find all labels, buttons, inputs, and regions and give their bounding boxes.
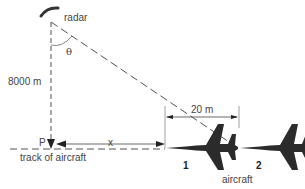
angle-theta-label: θ <box>66 47 72 57</box>
radar-label: radar <box>64 13 87 23</box>
aircraft-2-label: 2 <box>256 161 262 171</box>
aircraft-1-label: 1 <box>183 161 189 171</box>
height-label: 8000 m <box>8 77 41 87</box>
arrow-down-icon <box>47 139 55 149</box>
angle-arc <box>51 36 72 46</box>
point-p-label: P <box>39 138 46 148</box>
aircraft-2-icon <box>240 124 305 170</box>
arrow-right-icon <box>156 141 165 147</box>
distance-x-label: x <box>108 138 113 148</box>
radar-icon <box>41 8 58 16</box>
track-label: track of aircraft <box>20 153 86 163</box>
arrow-left-icon <box>56 141 66 148</box>
line-of-sight <box>51 22 238 148</box>
arrow-right-icon <box>231 115 238 119</box>
separation-label: 20 m <box>191 105 213 115</box>
aircraft-label: aircraft <box>222 175 253 185</box>
aircraft-1-icon <box>166 124 238 170</box>
arrow-left-icon <box>166 115 173 119</box>
